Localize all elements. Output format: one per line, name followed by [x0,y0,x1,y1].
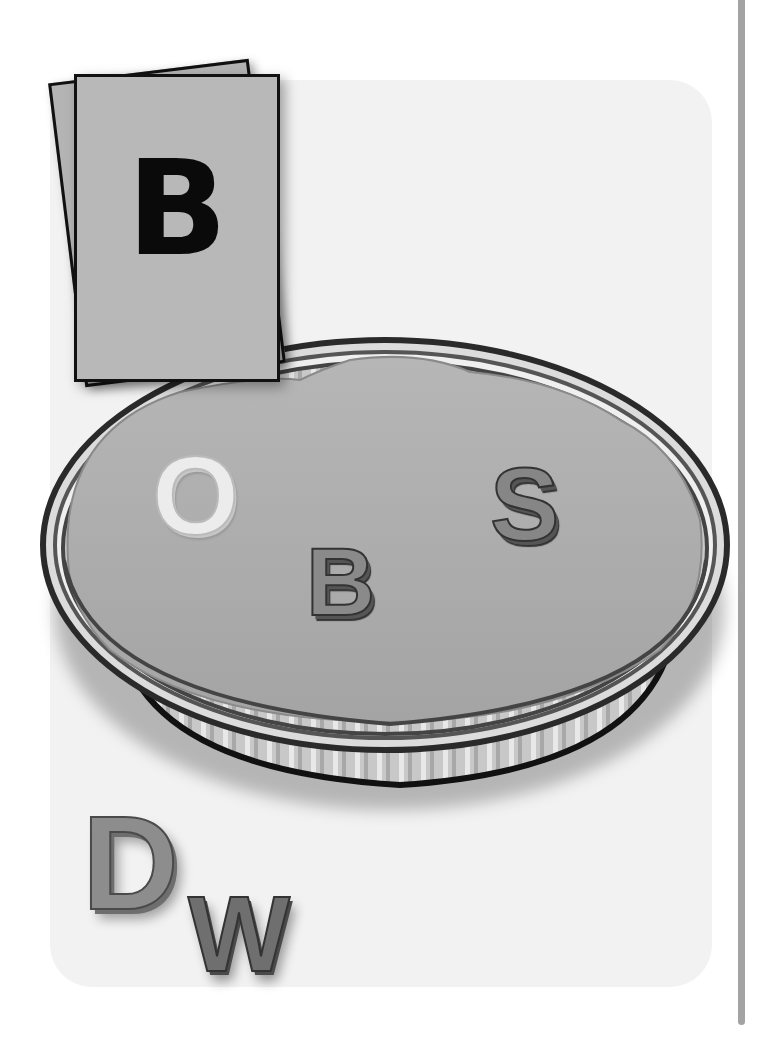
bottom-letter-d: D [82,796,179,930]
dish-letter-s[interactable]: S [490,452,559,556]
dish-letter-b[interactable]: B [306,534,375,630]
flashcard-front[interactable]: B [74,74,280,382]
bottom-letter-w: W [188,880,290,988]
card-letter: B [127,142,228,274]
dish-letter-o[interactable]: O [152,440,239,552]
